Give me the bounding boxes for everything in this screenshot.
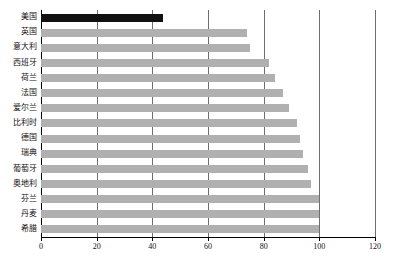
x-tick-100: [319, 237, 320, 241]
x-tick-60: [208, 237, 209, 241]
bar-10[interactable]: [41, 165, 308, 173]
bar-row: 西班牙: [41, 55, 375, 70]
x-tick-80: [264, 237, 265, 241]
bar-row: 荷兰: [41, 71, 375, 86]
chart-title: [0, 0, 409, 2]
x-tick-label-20: 20: [77, 242, 117, 251]
x-tick-40: [152, 237, 153, 241]
bar-row: 意大利: [41, 40, 375, 55]
bar-row: 德国: [41, 131, 375, 146]
x-tick-label-60: 60: [188, 242, 228, 251]
x-tick-0: [41, 237, 42, 241]
plot-area: 美国英国意大利西班牙荷兰法国爱尔兰比利时德国瑞典葡萄牙奥地利芬兰丹麦希腊: [41, 10, 375, 237]
category-label-4: 荷兰: [0, 73, 37, 82]
x-tick-label-0: 0: [21, 242, 61, 251]
bar-row: 芬兰: [41, 192, 375, 207]
category-label-1: 英国: [0, 27, 37, 36]
bar-6[interactable]: [41, 104, 289, 112]
bar-12[interactable]: [41, 195, 319, 203]
x-tick-120: [375, 237, 376, 241]
x-tick-label-40: 40: [132, 242, 172, 251]
bar-chart: 美国英国意大利西班牙荷兰法国爱尔兰比利时德国瑞典葡萄牙奥地利芬兰丹麦希腊 020…: [0, 0, 409, 261]
category-label-2: 意大利: [0, 42, 37, 51]
bar-8[interactable]: [41, 135, 300, 143]
bar-row: 葡萄牙: [41, 161, 375, 176]
bar-0[interactable]: [41, 14, 163, 22]
category-label-9: 瑞典: [0, 148, 37, 157]
bar-row: 奥地利: [41, 176, 375, 191]
bar-2[interactable]: [41, 44, 250, 52]
bar-13[interactable]: [41, 210, 319, 218]
bar-row: 英国: [41, 25, 375, 40]
bar-14[interactable]: [41, 225, 319, 233]
category-label-6: 爱尔兰: [0, 103, 37, 112]
bar-row: 法国: [41, 86, 375, 101]
bar-11[interactable]: [41, 180, 311, 188]
category-label-11: 奥地利: [0, 179, 37, 188]
gridline-120: [375, 10, 376, 237]
category-label-13: 丹麦: [0, 209, 37, 218]
bar-5[interactable]: [41, 89, 283, 97]
bar-7[interactable]: [41, 119, 297, 127]
category-label-5: 法国: [0, 88, 37, 97]
category-label-12: 芬兰: [0, 194, 37, 203]
bar-9[interactable]: [41, 150, 303, 158]
category-label-7: 比利时: [0, 118, 37, 127]
category-label-10: 葡萄牙: [0, 164, 37, 173]
category-label-3: 西班牙: [0, 58, 37, 67]
bar-row: 爱尔兰: [41, 101, 375, 116]
x-tick-label-100: 100: [299, 242, 339, 251]
bar-row: 美国: [41, 10, 375, 25]
x-tick-label-120: 120: [355, 242, 395, 251]
bar-row: 希腊: [41, 222, 375, 237]
bar-4[interactable]: [41, 74, 275, 82]
category-label-14: 希腊: [0, 224, 37, 233]
category-label-8: 德国: [0, 133, 37, 142]
x-tick-label-80: 80: [244, 242, 284, 251]
bar-1[interactable]: [41, 29, 247, 37]
x-tick-20: [97, 237, 98, 241]
bar-row: 比利时: [41, 116, 375, 131]
category-label-0: 美国: [0, 12, 37, 21]
bar-3[interactable]: [41, 59, 269, 67]
bar-row: 丹麦: [41, 207, 375, 222]
bar-row: 瑞典: [41, 146, 375, 161]
